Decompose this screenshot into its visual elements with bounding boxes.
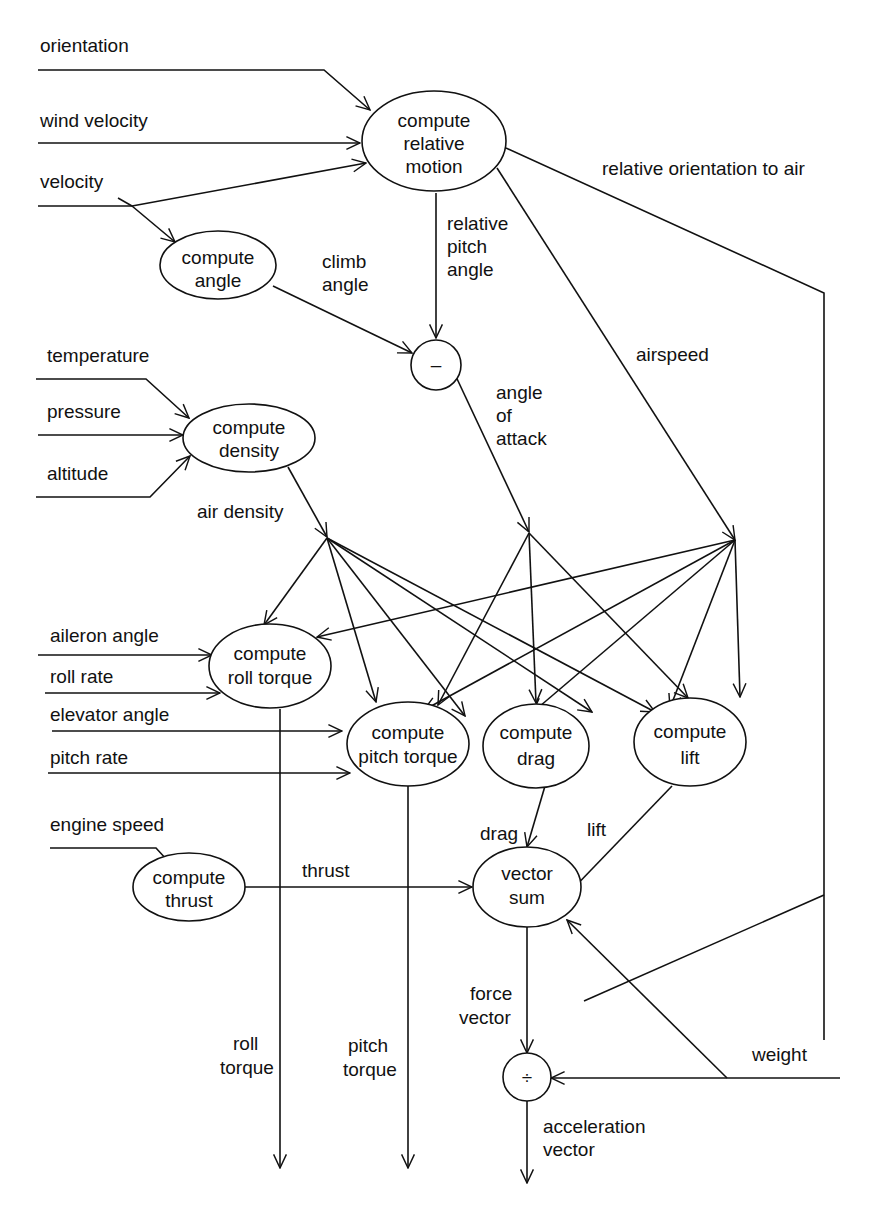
svg-text:compute: compute [398,110,471,131]
edge-air-density [288,467,327,537]
node-divide[interactable]: ÷ [503,1053,551,1101]
svg-text:angle: angle [195,270,242,291]
svg-text:compute: compute [182,247,255,268]
svg-text:climb: climb [322,251,366,272]
svg-text:density: density [219,440,280,461]
svg-text:force: force [470,983,512,1004]
node-vector-sum[interactable]: vector sum [473,847,581,927]
svg-text:roll torque: roll torque [228,667,313,688]
svg-text:angle: angle [496,382,543,403]
svg-text:÷: ÷ [522,1067,532,1088]
svg-text:pitch: pitch [348,1035,388,1056]
svg-text:compute: compute [213,417,286,438]
svg-text:roll: roll [233,1033,258,1054]
label-pitch-rate: pitch rate [50,747,128,768]
edge-drag [527,786,545,847]
label-velocity: velocity [40,171,104,192]
node-subtract[interactable]: – [411,340,461,390]
node-compute-angle[interactable]: compute angle [160,231,276,299]
node-compute-drag[interactable]: compute drag [483,704,589,788]
label-airspeed: airspeed [636,344,709,365]
label-wind-velocity: wind velocity [39,110,148,131]
label-relative-pitch-angle: relative pitch angle [447,213,508,280]
node-compute-roll-torque[interactable]: compute roll torque [209,624,331,708]
label-force-vector: force vector [459,983,512,1028]
label-thrust: thrust [302,860,350,881]
svg-text:of: of [496,405,513,426]
svg-text:–: – [431,354,442,375]
svg-text:vector: vector [459,1007,511,1028]
label-aileron-angle: aileron angle [50,625,159,646]
label-acceleration-vector: acceleration vector [543,1116,645,1160]
svg-text:vector: vector [501,863,553,884]
label-roll-rate: roll rate [50,666,113,687]
svg-text:compute: compute [234,643,307,664]
label-lift: lift [587,819,607,840]
label-roll-torque-output: roll torque [220,1033,274,1078]
edge-orientation [38,70,370,110]
label-engine-speed: engine speed [50,814,164,835]
label-altitude: altitude [47,463,108,484]
svg-text:attack: attack [496,428,547,449]
svg-text:compute: compute [153,867,226,888]
svg-text:angle: angle [322,274,369,295]
svg-text:lift: lift [681,747,701,768]
label-pressure: pressure [47,401,121,422]
node-compute-thrust[interactable]: compute thrust [133,853,245,921]
svg-text:angle: angle [447,259,494,280]
svg-text:compute: compute [500,722,573,743]
svg-text:relative: relative [403,133,464,154]
svg-text:acceleration: acceleration [543,1116,645,1137]
svg-text:motion: motion [405,156,462,177]
label-air-density: air density [197,501,284,522]
label-drag: drag [480,823,518,844]
node-compute-relative-motion[interactable]: compute relative motion [362,91,506,191]
svg-text:thrust: thrust [165,890,213,911]
svg-text:sum: sum [509,887,545,908]
label-pitch-torque-output: pitch torque [343,1035,397,1080]
svg-text:compute: compute [654,721,727,742]
edge-lift [566,786,672,896]
label-weight: weight [751,1044,808,1065]
svg-text:torque: torque [343,1059,397,1080]
dataflow-diagram: compute relative motion compute angle – … [0,0,876,1210]
label-angle-of-attack: angle of attack [496,382,547,449]
fanout-air-density [264,538,655,716]
svg-text:pitch torque: pitch torque [358,746,457,767]
svg-text:drag: drag [517,748,555,769]
svg-text:vector: vector [543,1139,595,1160]
edge-climb-angle [273,286,412,353]
svg-text:torque: torque [220,1057,274,1078]
svg-text:compute: compute [372,722,445,743]
label-orientation: orientation [40,35,129,56]
svg-text:pitch: pitch [447,236,487,257]
node-compute-density[interactable]: compute density [183,404,315,472]
label-relative-orientation: relative orientation to air [602,158,805,179]
node-compute-lift[interactable]: compute lift [634,698,746,786]
label-elevator-angle: elevator angle [50,704,169,725]
label-climb-angle: climb angle [322,251,369,295]
node-compute-pitch-torque[interactable]: compute pitch torque [347,702,469,786]
label-temperature: temperature [47,345,149,366]
svg-text:relative: relative [447,213,508,234]
